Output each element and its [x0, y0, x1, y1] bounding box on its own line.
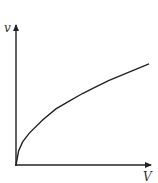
y-axis-label: v: [4, 21, 11, 35]
plot: v V: [0, 0, 158, 183]
x-axis-label: V: [143, 170, 153, 183]
curve-line: [16, 64, 149, 165]
